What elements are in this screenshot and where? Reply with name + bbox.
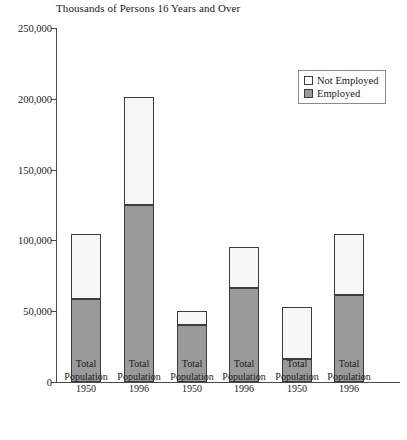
legend-swatch-not-employed-icon — [304, 76, 313, 85]
y-axis-tick-label: 150,000 — [18, 164, 52, 175]
bar-segment-not-employed — [282, 307, 312, 359]
y-axis-tick-label: 50,000 — [23, 306, 52, 317]
y-axis-tick-label: 250,000 — [18, 23, 52, 34]
bar-segment-not-employed — [177, 311, 207, 325]
chart-title: Thousands of Persons 16 Years and Over — [56, 2, 240, 14]
x-axis-label: TotalPopulation1996 — [316, 358, 382, 396]
x-axis-label-line: Population — [316, 371, 382, 384]
chart-legend: Not Employed Employed — [298, 70, 386, 104]
bar-segment-not-employed — [71, 234, 101, 299]
bar-segment-not-employed — [229, 247, 259, 288]
x-axis-label-line: Total — [316, 358, 382, 371]
y-axis-tick-label: 0 — [47, 377, 52, 388]
legend-label-employed: Employed — [317, 88, 360, 99]
legend-item-not-employed: Not Employed — [304, 74, 379, 87]
y-axis-tick-label: 200,000 — [18, 93, 52, 104]
bar-stack — [124, 97, 154, 382]
legend-item-employed: Employed — [304, 87, 379, 100]
bar-segment-not-employed — [334, 234, 364, 295]
y-axis-tick-label: 100,000 — [18, 235, 52, 246]
x-axis-label-line: 1996 — [316, 383, 382, 396]
legend-label-not-employed: Not Employed — [317, 75, 379, 86]
legend-swatch-employed-icon — [304, 89, 313, 98]
chart-container: Thousands of Persons 16 Years and Over 0… — [0, 0, 407, 440]
bar-segment-not-employed — [124, 97, 154, 205]
bar-segment-employed — [124, 205, 154, 382]
